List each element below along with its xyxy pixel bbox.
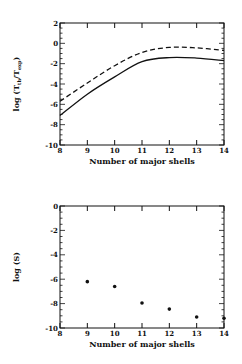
x-tick-label: 9 [85, 146, 90, 155]
x-tick-label: 8 [58, 329, 63, 338]
y-tick-label: 0 [53, 39, 58, 48]
y-axis-label: log (Tth/Texp) [11, 56, 23, 111]
plot-frame [60, 206, 224, 328]
figure: 89101112131420-2-4-6-8-10Number of major… [0, 0, 242, 364]
dashed-curve [60, 47, 224, 101]
x-tick-label: 11 [137, 329, 147, 338]
y-tick-label: -4 [50, 250, 58, 259]
data-point [140, 301, 144, 305]
y-tick-label: -8 [50, 299, 58, 308]
x-tick-label: 14 [219, 146, 229, 155]
y-tick-label: -2 [50, 226, 58, 235]
x-tick-label: 13 [192, 146, 202, 155]
data-point [113, 285, 117, 289]
data-point [168, 307, 172, 311]
data-point [222, 316, 226, 320]
y-tick-label: -6 [50, 100, 58, 109]
y-tick-label: -8 [50, 120, 58, 129]
x-axis-label: Number of major shells [89, 156, 195, 166]
solid-curve [60, 57, 224, 115]
data-point [86, 280, 90, 284]
y-tick-label: -10 [45, 324, 58, 333]
x-tick-label: 12 [164, 329, 174, 338]
x-tick-label: 10 [110, 329, 120, 338]
y-tick-label: -10 [45, 141, 58, 150]
x-axis-label: Number of major shells [89, 339, 195, 349]
y-tick-label: -4 [50, 80, 58, 89]
y-axis-label: log (S) [11, 252, 21, 282]
plot-frame [60, 23, 224, 145]
y-tick-label: 2 [53, 19, 58, 28]
y-tick-label: 0 [53, 202, 58, 211]
data-point [195, 315, 199, 319]
x-tick-label: 12 [164, 146, 174, 155]
x-tick-label: 9 [85, 329, 90, 338]
top-plot: 89101112131420-2-4-6-8-10Number of major… [11, 19, 229, 167]
x-tick-label: 11 [137, 146, 147, 155]
y-tick-label: -6 [50, 275, 58, 284]
bottom-plot: 8910111213140-2-4-6-8-10Number of major … [11, 202, 229, 350]
x-tick-label: 10 [110, 146, 120, 155]
x-tick-label: 8 [58, 146, 63, 155]
y-tick-label: -2 [50, 59, 58, 68]
x-tick-label: 14 [219, 329, 229, 338]
x-tick-label: 13 [192, 329, 202, 338]
